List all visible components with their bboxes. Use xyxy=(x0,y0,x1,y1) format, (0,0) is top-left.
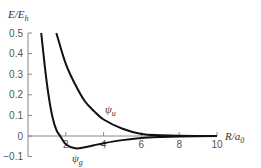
x-tick-label: 6 xyxy=(139,139,145,150)
psi-g-label: ψg xyxy=(72,152,83,167)
x-tick-label: 10 xyxy=(211,139,223,150)
psi-u-curve xyxy=(56,33,217,136)
x-tick-label: 8 xyxy=(176,139,182,150)
y-tick-label: 0.4 xyxy=(9,48,23,59)
y-tick-label: 0 xyxy=(17,131,23,142)
x-axis-label: R/a0 xyxy=(224,130,244,145)
y-tick-label: 0.5 xyxy=(9,28,23,39)
y-axis-label: E/Eh xyxy=(7,8,29,23)
energy-curve-chart: 0.50.40.30.20.10−0.1246810 E/Eh R/a0 ψu … xyxy=(0,0,261,168)
curves xyxy=(41,33,217,149)
y-tick-label: 0.3 xyxy=(9,69,23,80)
psi-u-label: ψu xyxy=(105,103,116,118)
y-tick-label: −0.1 xyxy=(3,151,23,162)
y-tick-label: 0.2 xyxy=(9,89,23,100)
y-tick-label: 0.1 xyxy=(9,110,23,121)
